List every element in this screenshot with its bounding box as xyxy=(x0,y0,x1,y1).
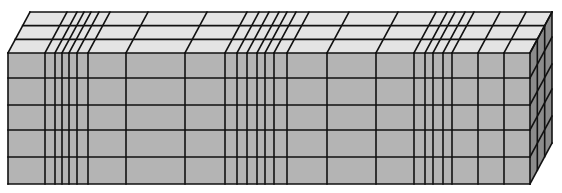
box-grid-diagram xyxy=(0,0,562,193)
box-faces xyxy=(8,12,552,184)
